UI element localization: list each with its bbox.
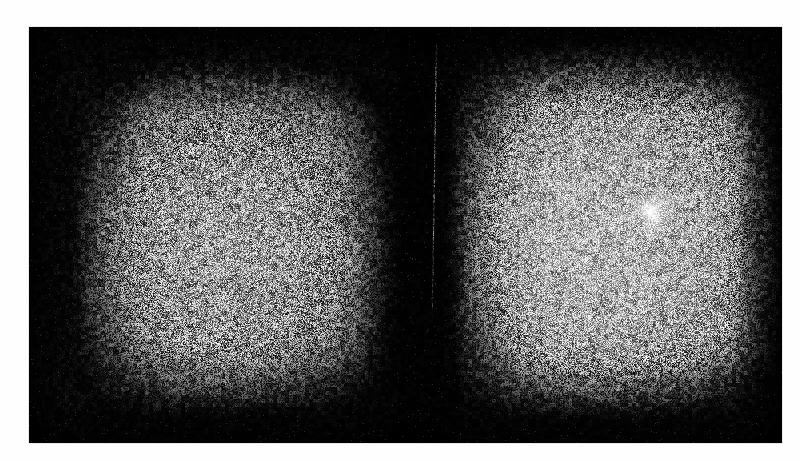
caption-area bbox=[29, 445, 782, 459]
inter-field-gutter bbox=[367, 27, 471, 443]
detector-plate-image bbox=[29, 27, 782, 443]
page-canvas bbox=[0, 0, 800, 461]
plate-edge-left bbox=[29, 27, 75, 443]
left-field-plateau bbox=[125, 99, 353, 367]
